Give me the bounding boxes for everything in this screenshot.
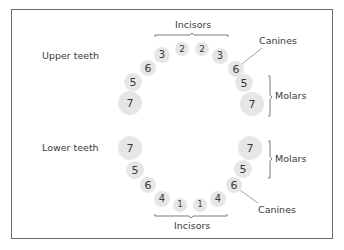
molars-lower-brace (268, 141, 272, 178)
lower-tooth: 7 (238, 136, 262, 160)
canines-upper-leader (242, 48, 262, 64)
upper-tooth: 6 (140, 60, 156, 76)
incisors-top-label: Incisors (175, 20, 211, 30)
upper-tooth: 3 (212, 48, 228, 64)
lower-tooth: 4 (154, 191, 170, 207)
lower-tooth: 4 (210, 191, 226, 207)
incisors-top-bracket (155, 33, 228, 37)
upper-tooth: 3 (154, 47, 170, 63)
canines-upper-label: Canines (259, 36, 297, 46)
lower-tooth: 6 (140, 177, 156, 193)
lower-tooth: 6 (226, 177, 242, 193)
lower-tooth: 1 (173, 198, 187, 212)
incisors-bottom-bracket (155, 214, 227, 218)
upper-tooth: 5 (124, 73, 142, 91)
lower-tooth: 1 (193, 198, 207, 212)
molars-upper-label: Molars (275, 91, 306, 101)
upper-teeth-label: Upper teeth (42, 51, 99, 61)
lower-teeth-label: Lower teeth (42, 143, 99, 153)
upper-tooth: 7 (118, 91, 142, 115)
incisors-bottom-label: Incisors (174, 221, 210, 231)
upper-tooth: 5 (235, 74, 253, 92)
lower-tooth: 5 (126, 161, 144, 179)
upper-tooth: 2 (175, 42, 189, 56)
upper-tooth: 2 (195, 42, 209, 56)
molars-upper-brace (268, 76, 272, 116)
canines-lower-leader (240, 190, 258, 203)
molars-lower-label: Molars (275, 154, 306, 164)
lower-tooth: 7 (118, 136, 142, 160)
lower-tooth: 5 (234, 160, 252, 178)
upper-tooth: 7 (240, 92, 264, 116)
canines-lower-label: Canines (258, 205, 296, 215)
